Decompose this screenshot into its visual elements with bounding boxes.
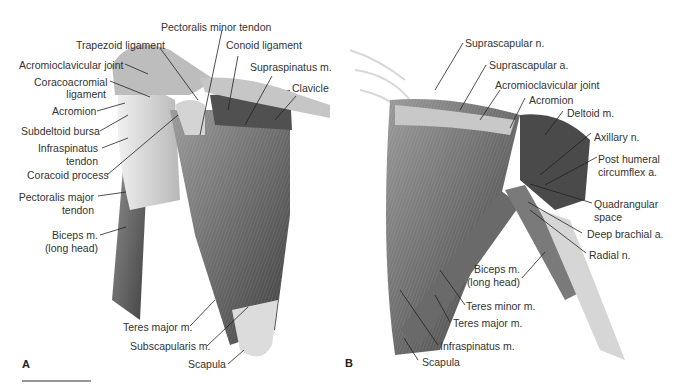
label-biceps-b-1: Biceps m.: [460, 263, 520, 275]
label-biceps-b-2: (long head): [455, 276, 520, 288]
label-pectoralis-major-tendon-1: Pectoralis major: [14, 191, 94, 203]
label-suprascapular-a: Suprascapular a.: [489, 59, 568, 71]
label-conoid-ligament: Conoid ligament: [226, 39, 302, 51]
label-scapula-b: Scapula: [422, 356, 460, 368]
label-axillary-n: Axillary n.: [594, 131, 640, 143]
label-acromioclavicular-joint-b: Acromioclavicular joint: [495, 79, 599, 91]
label-acromion-a: Acromion: [52, 105, 96, 117]
humeral-head-a: [118, 89, 181, 210]
label-coracoacromial-ligament-1: Coracoacromial: [34, 76, 106, 88]
panel-b-drawing: [350, 50, 625, 360]
label-quadrangular-1: Quadrangular: [594, 198, 658, 210]
label-infraspinatus-tendon-2: tendon: [20, 155, 98, 167]
label-clavicle-a: Clavicle: [292, 82, 329, 94]
label-deep-brachial: Deep brachial a.: [587, 228, 663, 240]
label-coracoid-process: Coracoid process: [27, 169, 109, 181]
label-suprascapular-n: Suprascapular n.: [465, 37, 544, 49]
label-trapezoid-ligament: Trapezoid ligament: [76, 39, 165, 51]
label-acromioclavicular-joint-a: Acromioclavicular joint: [19, 59, 123, 71]
label-scapula-a: Scapula: [188, 358, 226, 370]
label-teres-minor: Teres minor m.: [466, 300, 535, 312]
label-deltoid: Deltoid m.: [567, 107, 614, 119]
label-coracoacromial-ligament-2: ligament: [34, 88, 106, 100]
label-subscapularis: Subscapularis m.: [130, 340, 211, 352]
label-infraspinatus: Infraspinatus m.: [440, 340, 515, 352]
label-biceps-a-1: Biceps m.: [30, 229, 98, 241]
label-teres-major-b: Teres major m.: [453, 317, 522, 329]
panel-letter-a: A: [22, 358, 30, 370]
label-pectoralis-major-tendon-2: tendon: [14, 204, 94, 216]
label-biceps-a-2: (long head): [30, 242, 98, 254]
label-acromion-b: Acromion: [529, 94, 573, 106]
label-post-humeral-1: Post humeral: [598, 153, 660, 165]
label-pectoralis-minor-tendon: Pectoralis minor tendon: [161, 21, 271, 33]
label-post-humeral-2: circumflex a.: [598, 166, 657, 178]
label-subdeltoid-bursa: Subdeltoid bursa: [21, 125, 100, 137]
label-infraspinatus-tendon-1: Infraspinatus: [20, 142, 98, 154]
label-teres-major-a: Teres major m.: [123, 321, 192, 333]
label-supraspinatus-a: Supraspinatus m.: [250, 61, 332, 73]
panel-letter-b: B: [345, 357, 353, 369]
label-quadrangular-2: space: [594, 211, 622, 223]
label-radial-n: Radial n.: [589, 249, 630, 261]
